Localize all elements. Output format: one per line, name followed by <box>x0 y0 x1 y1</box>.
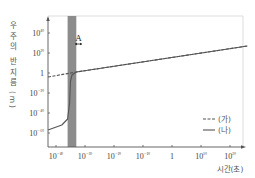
y-tick-label: 1 <box>40 69 44 78</box>
x-tick-label: 10²⁰ <box>224 152 236 161</box>
y-axis-title-char: 우 <box>10 21 17 30</box>
region-a-marker: A <box>75 33 82 45</box>
y-axis-title-char: m <box>8 96 17 103</box>
y-tick-label: 10⁻⁶⁰ <box>29 129 44 138</box>
legend: (가) (나) <box>203 115 231 135</box>
y-axis-title-char: ( <box>8 91 17 94</box>
y-axis-title-char: ) <box>8 105 17 108</box>
x-tick-label: 10⁻⁴⁰ <box>49 152 64 161</box>
y-axis-title-char: 반 <box>10 57 17 66</box>
x-tick-label: 1 <box>170 152 174 161</box>
arrowhead-right-icon <box>80 43 82 45</box>
x-tick-label: 10⁻²⁰ <box>107 152 122 161</box>
chart: A 10⁴⁰10²⁰110⁻²⁰10⁻⁴⁰10⁻⁶⁰ 10⁻⁴⁰10⁻³⁰10⁻… <box>0 0 255 178</box>
y-tick-label: 10⁴⁰ <box>32 29 44 38</box>
y-axis-title: 우주의반지름(m) <box>8 21 17 108</box>
y-axis-arrow-icon <box>46 16 49 21</box>
y-axis-title-char: 주 <box>10 32 17 41</box>
legend-label-ga: (가) <box>218 115 231 124</box>
x-axis-title: 시간(초) <box>217 164 244 174</box>
x-tick-label: 10¹⁰ <box>195 152 207 161</box>
region-a-label: A <box>75 33 82 43</box>
legend-label-na: (나) <box>218 126 231 135</box>
y-axis-title-char: 의 <box>10 41 17 51</box>
y-axis-title-char: 름 <box>10 78 17 87</box>
y-ticks: 10⁴⁰10²⁰110⁻²⁰10⁻⁴⁰10⁻⁶⁰ <box>29 29 50 138</box>
y-tick-label: 10⁻⁴⁰ <box>29 109 44 118</box>
x-tick-label: 10⁻¹⁰ <box>136 152 151 161</box>
y-tick-label: 10²⁰ <box>33 49 45 58</box>
y-axis-title-char: 지 <box>10 68 17 77</box>
x-tick-label: 10⁻³⁰ <box>78 152 93 161</box>
y-tick-label: 10⁻²⁰ <box>30 89 45 98</box>
